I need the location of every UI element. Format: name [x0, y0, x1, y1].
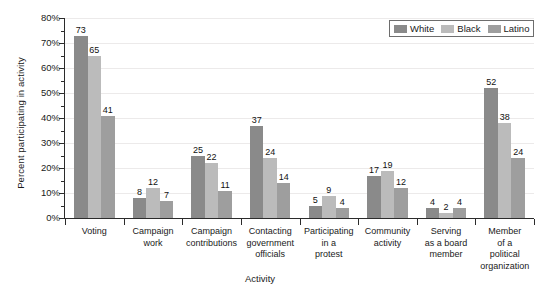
bar-value-label: 52 — [478, 77, 504, 87]
bar-value-label: 12 — [388, 177, 414, 187]
bar-value-label: 7 — [153, 190, 179, 200]
y-axis-tick-label: 0% — [24, 213, 60, 223]
bar-value-label: 73 — [68, 25, 94, 35]
y-axis-tick-label: 50% — [24, 88, 60, 98]
legend-item: Black — [441, 24, 480, 34]
y-axis-tick-label: 60% — [24, 63, 60, 73]
bar-group: 736541 — [65, 18, 124, 218]
x-axis-category-label-line: protest — [294, 249, 365, 261]
x-axis-title: Activity — [180, 273, 340, 284]
x-axis-category-label-line: political — [469, 249, 540, 261]
bar — [484, 88, 498, 218]
x-axis-tick — [300, 219, 301, 225]
x-axis-category-label-line: of a — [469, 238, 540, 250]
x-axis-tick — [124, 219, 125, 225]
bar — [74, 36, 88, 219]
bar — [101, 116, 115, 219]
bar-value-label: 12 — [140, 177, 166, 187]
x-axis-tick — [65, 219, 66, 225]
bar-value-label: 38 — [492, 112, 518, 122]
y-axis-tick-labels: 0%10%20%30%40%50%60%70%80% — [24, 18, 60, 218]
bar-value-label: 14 — [271, 172, 297, 182]
chart-legend: WhiteBlackLatino — [389, 20, 534, 37]
bar-value-label: 9 — [316, 185, 342, 195]
bar-value-label: 4 — [447, 197, 473, 207]
bar-group: 594 — [300, 18, 359, 218]
y-axis-tick-label: 10% — [24, 188, 60, 198]
bar — [218, 191, 232, 219]
y-axis-tick-label: 20% — [24, 163, 60, 173]
x-axis-tick — [182, 219, 183, 225]
bar-value-label: 4 — [329, 197, 355, 207]
bar — [205, 163, 219, 218]
bar-group: 252211 — [182, 18, 241, 218]
x-axis-category-label: Memberof apoliticalorganization — [469, 226, 540, 272]
legend-label: White — [410, 24, 434, 34]
x-axis-category-label-line: organization — [469, 261, 540, 273]
bar — [336, 208, 350, 218]
bar — [88, 56, 102, 219]
bar — [191, 156, 205, 219]
x-axis-tick — [534, 219, 535, 225]
bar-value-label: 65 — [81, 45, 107, 55]
legend-item: White — [394, 24, 434, 34]
x-axis-tick — [475, 219, 476, 225]
legend-label: Latino — [504, 24, 530, 34]
bar-group: 8127 — [124, 18, 183, 218]
bar — [394, 188, 408, 218]
x-axis-tick — [241, 219, 242, 225]
bar — [309, 206, 323, 219]
bar — [498, 123, 512, 218]
bar — [263, 158, 277, 218]
bar — [453, 208, 467, 218]
bar-value-label: 37 — [244, 115, 270, 125]
y-axis-tick-label: 70% — [24, 38, 60, 48]
bar — [367, 176, 381, 219]
bar — [511, 158, 525, 218]
bar-value-label: 41 — [95, 105, 121, 115]
bar — [277, 183, 291, 218]
bar-value-label: 24 — [505, 147, 531, 157]
bar — [439, 213, 453, 218]
plot-area: 7365418127252211372414594171912424523824 — [65, 18, 534, 218]
bar-group: 372414 — [241, 18, 300, 218]
y-axis-tick-label: 80% — [24, 13, 60, 23]
bar — [133, 198, 147, 218]
bar-group: 171912 — [358, 18, 417, 218]
bar-chart: Percent participating in activity 0%10%2… — [0, 0, 548, 300]
y-axis-tick-label: 40% — [24, 113, 60, 123]
bar-value-label: 11 — [212, 180, 238, 190]
bar — [250, 126, 264, 219]
legend-swatch-icon — [488, 25, 501, 33]
x-axis-category-label-line: Member — [469, 226, 540, 238]
bar-value-label: 22 — [199, 152, 225, 162]
bar-value-label: 19 — [374, 160, 400, 170]
legend-swatch-icon — [441, 25, 454, 33]
y-axis-tick-label: 30% — [24, 138, 60, 148]
bar-group: 424 — [417, 18, 476, 218]
legend-swatch-icon — [394, 25, 407, 33]
x-axis-tick — [358, 219, 359, 225]
bar-value-label: 24 — [257, 147, 283, 157]
bar-group: 523824 — [475, 18, 534, 218]
legend-item: Latino — [488, 24, 530, 34]
x-axis-tick — [417, 219, 418, 225]
legend-label: Black — [457, 24, 480, 34]
bar — [160, 201, 174, 219]
